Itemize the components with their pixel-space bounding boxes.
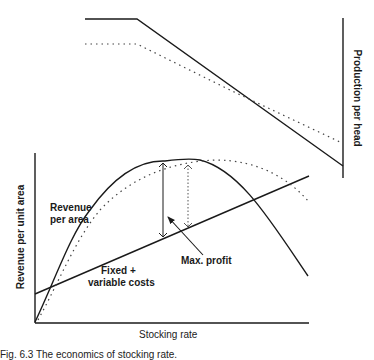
top-panel — [85, 18, 343, 178]
max-profit-pointer-arrow — [168, 217, 203, 255]
revenue-per-area-label-line1: Revenue — [50, 203, 92, 213]
revenue-per-unit-area-label: Revenue per unit area — [16, 185, 26, 289]
bottom-panel — [35, 153, 309, 323]
revenue-per-area-label-line2: per area — [50, 215, 89, 225]
max-profit-label: Max. profit — [181, 256, 232, 266]
cost-label-line2: variable costs — [88, 278, 155, 288]
cost-label-line1: Fixed + — [101, 266, 136, 276]
revenue-solid-curve — [35, 159, 308, 322]
cost-line — [35, 176, 309, 294]
revenue-dotted-curve — [38, 160, 309, 320]
production-dotted-line — [85, 44, 340, 142]
figure-caption: Fig. 6.3 The economics of stocking rate. — [0, 349, 177, 360]
production-solid-line — [85, 19, 343, 166]
production-per-head-label: Production per head — [352, 49, 362, 146]
stocking-rate-label: Stocking rate — [139, 330, 197, 340]
